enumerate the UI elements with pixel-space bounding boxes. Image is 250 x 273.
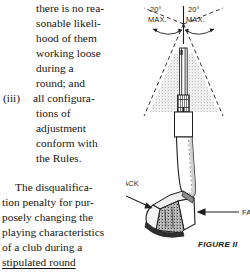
- arrowhead-back: [144, 202, 152, 208]
- list-item-iii: there is no rea- sonable likeli- hood of…: [0, 1, 128, 167]
- angle-arc-left: [153, 29, 182, 34]
- text-line: conform with: [0, 136, 128, 151]
- angle-right-value: 20°: [188, 5, 200, 14]
- text-line: playing characteristics: [2, 225, 130, 240]
- text-line: working loose: [0, 46, 128, 61]
- text-line: posely changing the: [2, 210, 130, 225]
- angle-right-unit: MAX.: [186, 15, 205, 24]
- text-line: tions of: [0, 106, 128, 121]
- body-text-column: there is no rea- sonable likeli- hood of…: [0, 0, 130, 273]
- callout-face: [197, 208, 240, 216]
- text-line-underlined: stipulated round: [2, 255, 130, 270]
- arrowhead-right-outer: [210, 29, 214, 33]
- text-line: tion penalty for pur-: [2, 195, 130, 210]
- text-line: during a: [0, 61, 128, 76]
- text-line: round; and: [0, 76, 128, 91]
- figure-ii-svg: 20° MAX. 20° MAX.: [126, 0, 250, 273]
- label-face: FACE: [242, 208, 250, 217]
- text-line: hood of them: [0, 31, 128, 46]
- disqualification-paragraph: The disqualifica- tion penalty for pur- …: [0, 180, 130, 270]
- text-line: there is no rea-: [0, 1, 128, 16]
- label-back: BACK: [126, 179, 139, 188]
- stipulated-round-link: stipulated round: [2, 256, 76, 268]
- figure-ii-illustration: 20° MAX. 20° MAX.: [126, 0, 250, 273]
- callout-back: [126, 196, 153, 209]
- club-shaft-lower: [177, 137, 196, 198]
- list-row: (iii) all configura-: [0, 91, 128, 106]
- text-line: The disqualifica-: [2, 180, 130, 195]
- text-line: sonable likeli-: [0, 16, 128, 31]
- hosel-ferrule: [175, 112, 193, 137]
- text-line: adjustment: [0, 121, 128, 136]
- list-marker-iii: (iii): [0, 91, 33, 106]
- figure-caption: FIGURE II: [198, 240, 238, 249]
- angle-left-unit: MAX.: [148, 15, 167, 24]
- angle-arc-right: [185, 29, 214, 34]
- text-line: the Rules.: [0, 151, 128, 166]
- angle-left-value: 20°: [150, 5, 162, 14]
- text-line: all configura-: [33, 91, 128, 106]
- arrowhead-face: [197, 208, 206, 216]
- arrowhead-left-outer: [153, 29, 157, 33]
- text-line: of a club during a: [2, 240, 130, 255]
